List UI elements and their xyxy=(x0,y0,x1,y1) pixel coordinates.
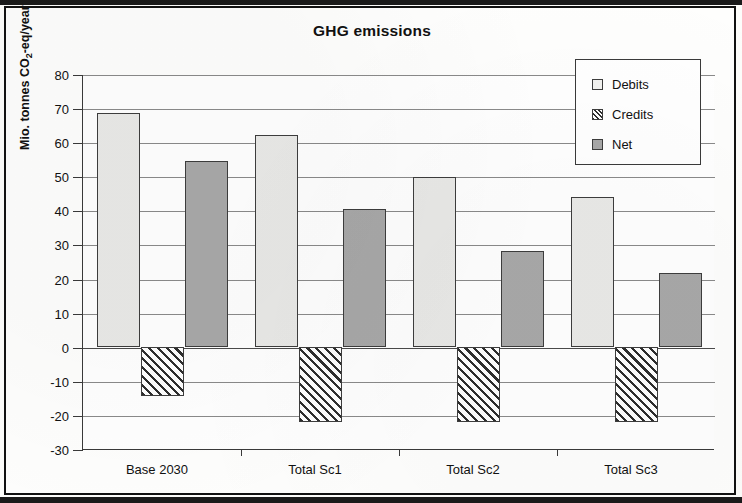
y-tick-label--30: -30 xyxy=(50,443,69,458)
bar-credits-2 xyxy=(299,347,342,422)
y-tick-30 xyxy=(73,245,83,246)
legend-label-debits: Debits xyxy=(612,77,649,92)
bar-net-1 xyxy=(185,161,228,347)
x-tick-2 xyxy=(399,449,400,456)
bar-net-3 xyxy=(501,251,544,346)
y-tick-label-30: 30 xyxy=(55,238,69,253)
y-tick-70 xyxy=(73,109,83,110)
bar-credits-3 xyxy=(457,347,500,422)
y-tick-label-40: 40 xyxy=(55,204,69,219)
y-tick--30 xyxy=(73,450,83,451)
y-tick-label-60: 60 xyxy=(55,136,69,151)
x-axis-label-2: Total Sc1 xyxy=(236,462,394,477)
bar-group-1 xyxy=(83,74,241,449)
bar-group-2 xyxy=(241,74,399,449)
y-tick-label-20: 20 xyxy=(55,272,69,287)
y-tick-label-80: 80 xyxy=(55,68,69,83)
legend-item-debits: Debits xyxy=(592,69,700,99)
legend-label-net: Net xyxy=(612,137,632,152)
bar-credits-4 xyxy=(615,347,658,422)
x-axis-label-1: Base 2030 xyxy=(78,462,236,477)
y-tick-10 xyxy=(73,314,83,315)
y-tick-20 xyxy=(73,280,83,281)
y-tick-0 xyxy=(73,348,83,349)
legend-swatch-credits-icon xyxy=(592,109,603,120)
y-axis-title-prefix: Mio. tonnes CO xyxy=(18,58,32,150)
legend-swatch-debits-icon xyxy=(592,79,603,90)
y-tick--20 xyxy=(73,416,83,417)
y-axis-title-subscript: 2 xyxy=(24,53,34,58)
bar-debits-3 xyxy=(413,177,456,346)
y-tick-label-50: 50 xyxy=(55,170,69,185)
y-axis-title: Mio. tonnes CO2-eq/year xyxy=(18,0,34,150)
bar-net-2 xyxy=(343,209,386,347)
y-axis-title-suffix: -eq/year xyxy=(18,5,32,53)
legend-item-net: Net xyxy=(592,129,700,159)
x-axis-label-3: Total Sc2 xyxy=(394,462,552,477)
y-tick-label--10: -10 xyxy=(50,374,69,389)
y-tick-60 xyxy=(73,143,83,144)
bar-debits-4 xyxy=(571,197,614,347)
scan-edge-bottom xyxy=(0,497,742,503)
y-tick-label--20: -20 xyxy=(50,408,69,423)
bar-debits-2 xyxy=(255,135,298,346)
bar-group-3 xyxy=(399,74,557,449)
y-tick-80 xyxy=(73,75,83,76)
bar-debits-1 xyxy=(97,113,140,347)
scan-edge-top xyxy=(0,0,742,5)
chart-container: GHG emissions Mio. tonnes CO2-eq/year 80… xyxy=(4,6,736,495)
bar-credits-1 xyxy=(141,347,184,396)
y-tick-40 xyxy=(73,211,83,212)
chart-title: GHG emissions xyxy=(6,22,738,40)
chart-legend: DebitsCreditsNet xyxy=(575,59,701,165)
y-tick-label-0: 0 xyxy=(62,340,69,355)
y-tick--10 xyxy=(73,382,83,383)
legend-swatch-net-icon xyxy=(592,139,603,150)
bar-net-4 xyxy=(659,273,702,346)
x-tick-1 xyxy=(241,449,242,456)
x-axis-label-4: Total Sc3 xyxy=(552,462,710,477)
x-tick-3 xyxy=(557,449,558,456)
y-tick-label-10: 10 xyxy=(55,306,69,321)
legend-item-credits: Credits xyxy=(592,99,700,129)
legend-label-credits: Credits xyxy=(612,107,653,122)
y-tick-50 xyxy=(73,177,83,178)
y-tick-label-70: 70 xyxy=(55,102,69,117)
scanned-page: GHG emissions Mio. tonnes CO2-eq/year 80… xyxy=(0,0,742,503)
